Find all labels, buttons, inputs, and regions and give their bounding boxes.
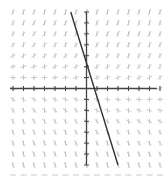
axes [10,12,160,165]
slope-field-plot [0,0,163,181]
